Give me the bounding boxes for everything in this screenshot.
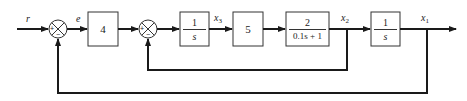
signal-label-x1: x1 [421,13,429,25]
signal-label-x3: x3 [214,13,222,25]
gain-4-text: 4 [88,12,118,46]
sum2-minus-sign: − [146,31,150,38]
first-order-text: 2 0.1s + 1 [286,12,329,46]
sum2-plus-sign: + [140,25,144,32]
signal-label-r: r [26,14,30,24]
integrator-1-text: 1 s [180,12,209,46]
sum1-plus-sign: + [50,25,54,32]
signal-label-x2: x2 [341,13,349,25]
gain-5-text: 5 [233,12,263,46]
integrator-2-text: 1 s [371,12,400,46]
sum1-minus-sign: − [56,31,60,38]
signal-label-e: e [76,14,80,24]
